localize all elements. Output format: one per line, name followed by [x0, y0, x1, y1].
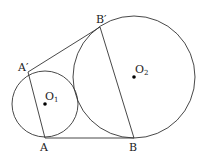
segment-b-b-prime — [100, 27, 134, 138]
label-a: A — [40, 142, 48, 153]
label-o1-main: O — [45, 90, 54, 103]
label-o1-sub: 1 — [54, 96, 58, 104]
label-o2-sub: 2 — [144, 69, 148, 77]
label-o2-main: O — [135, 63, 144, 76]
segment-a-a-prime — [28, 72, 45, 138]
segment-a-prime-b-prime — [28, 27, 100, 72]
label-b-prime: B′ — [96, 14, 107, 25]
geometry-diagram: A B A′ B′ O1 O2 — [0, 0, 206, 162]
label-b: B — [129, 142, 137, 153]
label-o2: O2 — [135, 64, 149, 77]
label-a-prime: A′ — [18, 62, 28, 73]
label-o1: O1 — [45, 91, 59, 104]
